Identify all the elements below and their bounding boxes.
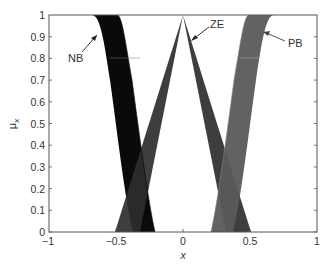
ze-label: ZE	[210, 18, 224, 30]
x-tick-labels: −1 −0.5 0 0.5 1	[42, 235, 320, 247]
y-tick-label: 1	[39, 9, 45, 21]
y-tick-label: 0.6	[30, 96, 45, 108]
pb-band	[211, 15, 274, 232]
y-tick-label: 0.1	[30, 204, 45, 216]
plot-area	[92, 15, 274, 232]
x-tick-label: −1	[42, 235, 54, 247]
svg-text:μx: μx	[6, 118, 21, 129]
y-tick-label: 0.4	[30, 139, 45, 151]
y-tick-label: 0.9	[30, 31, 45, 43]
x-tick-label: 1	[314, 235, 320, 247]
y-tick-label: 0.2	[30, 183, 45, 195]
x-tick-label: 0	[180, 235, 186, 247]
y-tick-labels: 0 0.1 0.2 0.3 0.4 0.5 0.6 0.7 0.8 0.9 1	[30, 9, 45, 238]
y-axis-label-sub: x	[12, 118, 21, 124]
axes	[49, 15, 317, 232]
y-tick-label: 0.7	[30, 74, 45, 86]
x-axis-label: x	[179, 249, 186, 261]
nb-label: NB	[68, 52, 83, 64]
y-tick-label: 0.3	[30, 161, 45, 173]
membership-function-chart: 0 0.1 0.2 0.3 0.4 0.5 0.6 0.7 0.8 0.9 1 …	[0, 0, 331, 270]
annotation-pb: PB	[263, 31, 303, 49]
y-axis-label: μx	[6, 118, 21, 129]
pb-label: PB	[288, 37, 303, 49]
axes-box	[49, 15, 317, 232]
x-tick-label: 0.5	[243, 235, 258, 247]
annotation-nb: NB	[68, 35, 97, 64]
x-tick-label: −0.5	[106, 235, 127, 247]
y-tick-label: 0.8	[30, 52, 45, 64]
annotation-ze: ZE	[191, 18, 224, 41]
y-ticks	[49, 37, 317, 232]
y-tick-label: 0.5	[30, 118, 45, 130]
